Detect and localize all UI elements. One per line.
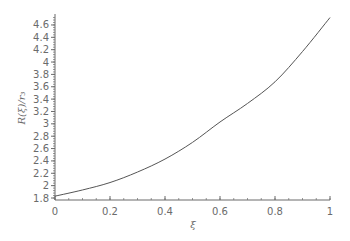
x-tick-label: 0.6 xyxy=(212,206,228,217)
line-chart: 1.822.22.42.62.833.23.43.63.844.24.44.6 … xyxy=(0,0,350,241)
x-tick-label: 0.4 xyxy=(157,206,173,217)
series-line xyxy=(55,18,330,197)
y-tick-label: 2.4 xyxy=(33,155,49,166)
data-series xyxy=(55,18,330,197)
y-axis-title: R(ξ)/r₃ xyxy=(16,92,27,126)
x-axis: 00.20.40.60.81 xyxy=(52,196,333,217)
y-tick-label: 4.6 xyxy=(33,19,49,30)
y-tick-label: 4.4 xyxy=(33,32,49,43)
y-tick-label: 2.6 xyxy=(33,143,49,154)
y-tick-label: 4 xyxy=(43,57,49,68)
y-tick-label: 3.8 xyxy=(33,69,49,80)
y-tick-label: 3 xyxy=(43,118,49,129)
y-tick-label: 3.4 xyxy=(33,94,49,105)
x-tick-label: 0.2 xyxy=(102,206,118,217)
y-tick-label: 3.6 xyxy=(33,81,49,92)
y-tick-label: 2.2 xyxy=(33,168,49,179)
x-tick-label: 1 xyxy=(327,206,333,217)
y-axis: 1.822.22.42.62.833.23.43.63.844.24.44.6 xyxy=(33,14,55,204)
y-tick-label: 1.8 xyxy=(33,193,49,204)
x-axis-title: ξ xyxy=(190,219,196,230)
y-tick-label: 2 xyxy=(43,180,49,191)
y-tick-label: 2.8 xyxy=(33,131,49,142)
x-tick-label: 0.8 xyxy=(267,206,283,217)
y-tick-label: 4.2 xyxy=(33,44,49,55)
x-tick-label: 0 xyxy=(52,206,58,217)
y-tick-label: 3.2 xyxy=(33,106,49,117)
